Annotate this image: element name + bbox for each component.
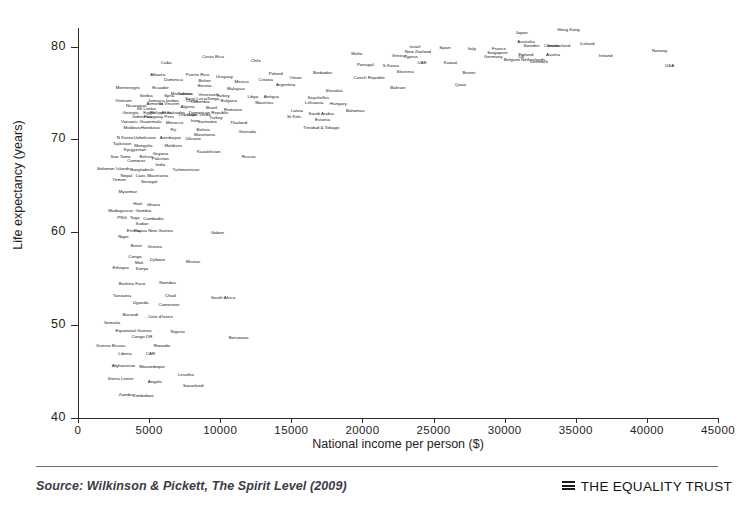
data-point-label: Estonia (315, 117, 330, 122)
data-point-label: Ecuador (152, 85, 169, 90)
data-point-label: Trinidad & Tobago (303, 125, 339, 130)
data-point-label: Spain (439, 44, 450, 49)
data-point-label: Algeria (180, 104, 194, 109)
data-point-label: Papua New Guinea (134, 228, 173, 233)
data-point-label: Tanzania (113, 293, 131, 298)
x-tick-label: 30000 (488, 424, 522, 436)
data-point-label: Gabon (211, 230, 224, 235)
data-point-label: Libya (248, 93, 259, 98)
equality-trust-brand-label: THE EQUALITY TRUST (581, 479, 732, 494)
data-point-label: Japan (516, 29, 528, 34)
data-point-label: Bahrain (390, 85, 405, 90)
data-point-label: PNG (117, 214, 127, 219)
data-point-label: Vanuatu (121, 118, 137, 123)
data-point-label: Denmark (530, 59, 548, 64)
data-point-label: Lesotho (178, 372, 194, 377)
data-point-label: Maldives (164, 143, 182, 148)
data-point-label: Gambia (136, 208, 152, 213)
y-tick-mark (71, 418, 78, 419)
data-point-label: Montenegro (116, 85, 140, 90)
data-point-label: Norway (652, 48, 667, 53)
x-tick-mark (647, 418, 648, 423)
data-point-label: Ukraine (185, 135, 200, 140)
data-point-label: Iceland (580, 40, 595, 45)
data-point-label: Seychelles (307, 94, 329, 99)
data-point-label: Burundi (123, 312, 138, 317)
data-point-label: Mauritius (255, 100, 273, 105)
data-point-label: Portugal (357, 62, 374, 67)
data-point-label: Thailand (230, 119, 247, 124)
data-point-label: Ireland (599, 52, 613, 57)
x-tick-label: 45000 (701, 424, 735, 436)
data-point-label: Mexico (234, 78, 248, 83)
x-tick-label: 10000 (203, 424, 237, 436)
data-point-label: Moldova (124, 125, 141, 130)
x-tick-label: 20000 (345, 424, 379, 436)
data-point-label: Germany (484, 53, 502, 58)
data-point-label: Malaysia (227, 86, 245, 91)
data-point-label: Qatar (455, 81, 466, 86)
data-point-label: Chile (251, 57, 261, 62)
footer-divider (36, 466, 718, 467)
data-point-label: Comoros (127, 157, 145, 162)
data-point-label: Russia (242, 154, 256, 159)
data-point-label: Swaziland (183, 382, 203, 387)
y-tick-mark (71, 325, 78, 326)
data-point-label: Sierra Leone (108, 376, 134, 381)
equality-trust-logo-icon (562, 481, 575, 492)
y-tick-mark (71, 47, 78, 48)
y-tick-label: 60 (40, 224, 66, 238)
data-point-label: Kuwait (444, 60, 457, 65)
data-point-label: Botswana (229, 335, 249, 340)
data-point-label: USA (665, 63, 674, 68)
data-point-label: Poland (269, 70, 283, 75)
data-point-label: Haiti (133, 200, 142, 205)
data-point-label: CAR (146, 351, 155, 356)
data-point-label: Argentina (276, 81, 295, 86)
y-axis-title: Life expectancy (years) (11, 85, 25, 285)
x-tick-mark (78, 418, 79, 423)
data-point-label: Vietnam (115, 97, 131, 102)
data-point-label: Liberia (118, 351, 132, 356)
x-tick-mark (718, 418, 719, 423)
data-point-label: Canada (544, 42, 560, 47)
chart-figure: 4050607080 05000100001500020000250003000… (0, 0, 752, 518)
data-point-label: Cameroon (159, 301, 180, 306)
data-point-label: Angola (148, 378, 162, 383)
data-point-label: Peru (164, 114, 173, 119)
data-point-label: Myanmar (118, 189, 137, 194)
data-point-label: South Africa (211, 295, 235, 300)
data-point-label: Cape Verde (187, 112, 211, 117)
x-tick-mark (434, 418, 435, 423)
data-point-label: Belgium (504, 56, 520, 61)
data-point-label: Antigua (264, 93, 279, 98)
data-point-label: India (156, 161, 166, 166)
data-point-label: Costa Rica (202, 53, 224, 58)
x-tick-label: 5000 (136, 424, 163, 436)
data-point-label: Italy (468, 45, 476, 50)
data-point-label: Kazakhstan (197, 148, 220, 153)
data-point-label: Cuba (161, 60, 172, 65)
data-point-label: Pakistan (152, 156, 169, 161)
data-point-label: Equatorial Guinea (115, 327, 151, 332)
data-point-label: Tajikistan (113, 141, 132, 146)
data-point-label: Yemen (112, 177, 126, 182)
x-axis-line (78, 418, 718, 419)
x-tick-label: 15000 (274, 424, 308, 436)
data-point-label: Sweden (524, 42, 540, 47)
data-point-label: Azerbaijan (160, 134, 181, 139)
y-tick-mark (71, 139, 78, 140)
x-tick-label: 40000 (630, 424, 664, 436)
data-point-label: Lithuania (305, 100, 323, 105)
data-point-label: Guinea Bissau (96, 342, 125, 347)
data-point-label: St Kitts (287, 114, 301, 119)
x-tick-mark (220, 418, 221, 423)
x-tick-label: 35000 (559, 424, 593, 436)
data-point-label: Mozambique (139, 364, 165, 369)
data-point-label: Fiji (170, 127, 176, 132)
data-point-label: Uzbekistan (134, 134, 156, 139)
data-point-label: Hungary (330, 101, 347, 106)
data-point-label: Dominica (164, 77, 183, 82)
data-point-label: Chad (165, 293, 176, 298)
x-tick-mark (576, 418, 577, 423)
